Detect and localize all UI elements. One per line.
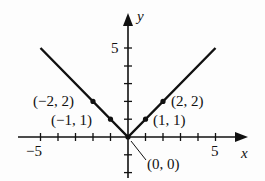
x-tick-label-minus5: −5 xyxy=(26,144,42,159)
y-axis-arrow-icon xyxy=(123,13,133,26)
point-label-m2: (−2, 2) xyxy=(33,94,74,109)
x-tick-label-5: 5 xyxy=(211,144,219,159)
y-axis-label: y xyxy=(137,9,144,24)
point-label-0: (0, 0) xyxy=(147,157,180,172)
point-0 xyxy=(125,134,130,139)
chart: y x 5 −5 5 (−2, 2) (−1, 1) (2, 2) (1, 1)… xyxy=(0,0,265,181)
point-label-m1: (−1, 1) xyxy=(51,113,92,128)
point-label-2: (2, 2) xyxy=(171,94,204,109)
x-axis-arrow-icon xyxy=(235,132,248,142)
x-axis-label: x xyxy=(241,146,248,161)
point-label-1: (1, 1) xyxy=(153,113,186,128)
point-m2 xyxy=(90,99,95,104)
point-m1 xyxy=(108,117,113,122)
origin-leader-line xyxy=(131,141,146,160)
y-tick-label-5: 5 xyxy=(111,41,119,56)
point-1 xyxy=(143,117,148,122)
point-2 xyxy=(160,99,165,104)
